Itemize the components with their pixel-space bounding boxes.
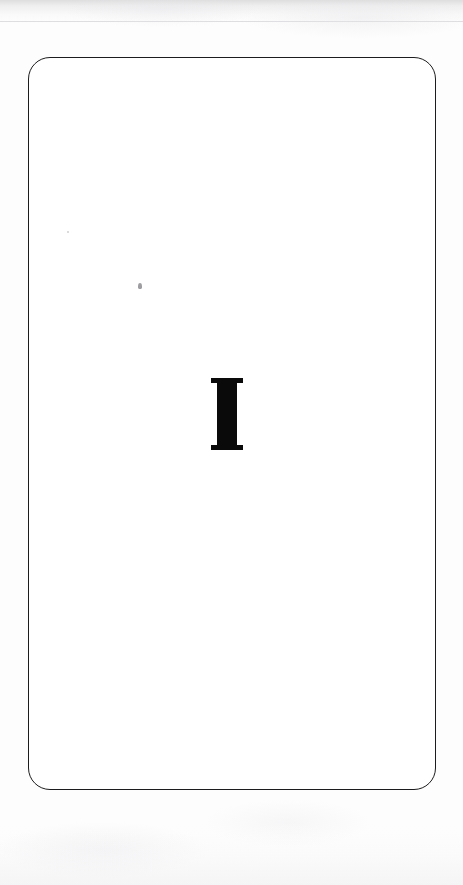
scan-edge-top [0, 0, 463, 26]
scanned-page [0, 0, 463, 885]
scan-edge-bottom [0, 815, 463, 885]
scan-hairline-top [0, 21, 463, 22]
center-letter-i-glyph [211, 378, 243, 450]
